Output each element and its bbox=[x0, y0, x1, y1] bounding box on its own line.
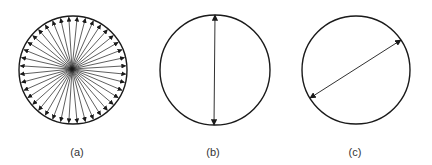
radial-arrow bbox=[28, 69, 72, 98]
panel-a: (a) bbox=[19, 16, 127, 158]
radial-arrows-group bbox=[20, 17, 126, 123]
panel-label-a: (a) bbox=[70, 146, 83, 158]
radial-arrow bbox=[28, 42, 72, 69]
radial-arrow bbox=[72, 69, 118, 98]
circle-c bbox=[302, 16, 410, 124]
panel-c: (c) bbox=[302, 16, 410, 158]
radial-arrow bbox=[39, 69, 72, 110]
radial-arrow bbox=[72, 25, 101, 69]
panel-label-c: (c) bbox=[349, 146, 362, 158]
radial-arrow bbox=[24, 50, 72, 69]
radial-arrow bbox=[72, 69, 126, 74]
radial-arrow bbox=[72, 36, 113, 69]
diameter-arrow-vertical bbox=[214, 15, 215, 125]
diagonal-arrow bbox=[310, 40, 401, 98]
radial-arrow bbox=[72, 69, 77, 123]
radial-arrow bbox=[53, 21, 72, 69]
radial-arrow bbox=[45, 25, 72, 69]
radial-arrow bbox=[72, 17, 77, 69]
radial-arrow bbox=[33, 36, 72, 69]
radial-arrow bbox=[45, 69, 72, 115]
radial-arrow bbox=[72, 42, 118, 69]
radial-arrow bbox=[20, 69, 72, 74]
figure: (a) (b) (c) bbox=[0, 0, 432, 165]
panel-label-b: (b) bbox=[206, 146, 219, 158]
radial-arrow bbox=[39, 30, 72, 69]
radial-arrow bbox=[72, 69, 101, 115]
panel-b: (b) bbox=[160, 15, 270, 158]
